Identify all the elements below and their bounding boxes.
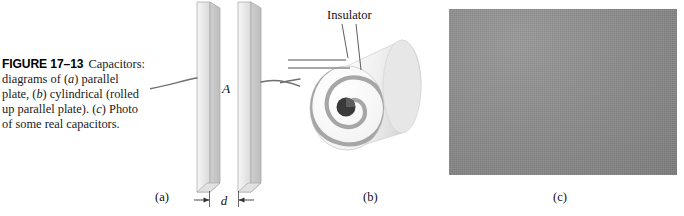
photo-background: [449, 9, 677, 175]
caption-line5: of some real capacitors.: [2, 117, 120, 131]
photo-frame: [449, 9, 677, 175]
gap-arrowhead-left: [204, 198, 210, 203]
left-plate-side: [210, 2, 220, 192]
right-plate-side: [251, 2, 261, 192]
left-wire-lead: [150, 78, 197, 89]
left-plate-face: [197, 2, 210, 192]
parallel-plate-capacitor-diagram: A d: [150, 0, 300, 216]
right-plate-face: [238, 2, 251, 192]
plate-gap-label: d: [221, 193, 228, 208]
panel-b-label: (b): [363, 190, 378, 205]
caption-lead: Capacitors:: [88, 57, 144, 71]
gap-arrowhead-right: [239, 198, 245, 203]
parallel-plate-svg: A d: [150, 0, 300, 216]
caption-line3-pre: plate, (: [2, 87, 36, 101]
insulator-leader-line-1: [342, 24, 348, 58]
incoming-wire-from-panel-a: [280, 79, 300, 84]
caption-line2-pre: diagrams of (: [2, 72, 68, 86]
insulator-label: Insulator: [327, 8, 372, 23]
figure-number-label: FIGURE 17–13: [2, 57, 83, 71]
figure-17-13: FIGURE 17–13Capacitors: diagrams of (a) …: [0, 0, 684, 216]
cylindrical-rolled-capacitor-diagram: Insulator: [280, 0, 450, 216]
cylinder-far-cap: [383, 40, 421, 133]
rolled-capacitor-svg: [280, 0, 450, 216]
plate-area-label: A: [221, 81, 231, 96]
real-capacitors-photograph: [449, 9, 677, 175]
figure-caption: FIGURE 17–13Capacitors: diagrams of (a) …: [2, 57, 154, 132]
caption-line4-post: ) Photo: [102, 102, 138, 116]
caption-line4-pre: up parallel plate). (: [2, 102, 96, 116]
panel-c-label: (c): [553, 190, 567, 205]
caption-line3-post: ) cylindrical (rolled: [43, 87, 139, 101]
panel-a-label: (a): [155, 190, 169, 205]
caption-line2-post: ) parallel: [74, 72, 118, 86]
